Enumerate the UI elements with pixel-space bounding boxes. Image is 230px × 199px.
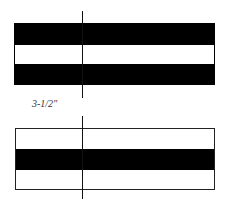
centerline-upper [82, 11, 83, 98]
bottom-panel-light-stripe-1 [16, 129, 214, 149]
top-panel-light-stripe [15, 45, 214, 64]
dimension-label: 3-1/2" [32, 98, 57, 109]
bottom-panel-light-stripe-2 [16, 170, 214, 189]
bottom-panel-dark-stripe [16, 149, 214, 170]
centerline-lower [82, 116, 83, 199]
top-stripe-panel [14, 23, 215, 85]
top-panel-dark-stripe-1 [15, 24, 214, 45]
top-panel-dark-stripe-2 [15, 64, 214, 84]
bottom-stripe-panel [15, 128, 215, 190]
